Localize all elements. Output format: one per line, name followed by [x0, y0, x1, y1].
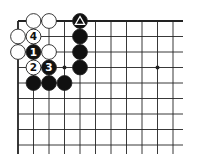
stones: 4123 — [11, 14, 88, 91]
black-stone — [26, 76, 41, 91]
white-stone — [42, 45, 57, 60]
go-board: 4123 — [0, 0, 199, 161]
black-stone — [73, 45, 88, 60]
move-number-label: 1 — [30, 46, 37, 58]
black-stone — [73, 60, 88, 75]
white-stone — [26, 14, 41, 29]
black-stone — [73, 14, 88, 29]
white-stone: 4 — [26, 29, 41, 44]
black-stone: 3 — [42, 60, 57, 75]
black-stone — [57, 76, 72, 91]
black-stone — [42, 76, 57, 91]
star-point-icon — [63, 66, 67, 70]
move-number-label: 4 — [30, 30, 37, 42]
white-stone: 2 — [26, 60, 41, 75]
white-stone — [11, 29, 26, 44]
black-stone: 1 — [26, 45, 41, 60]
black-stone — [73, 29, 88, 44]
star-point-icon — [156, 66, 160, 70]
white-stone — [11, 45, 26, 60]
move-number-label: 3 — [45, 61, 52, 73]
white-stone — [42, 14, 57, 29]
move-number-label: 2 — [30, 61, 37, 73]
